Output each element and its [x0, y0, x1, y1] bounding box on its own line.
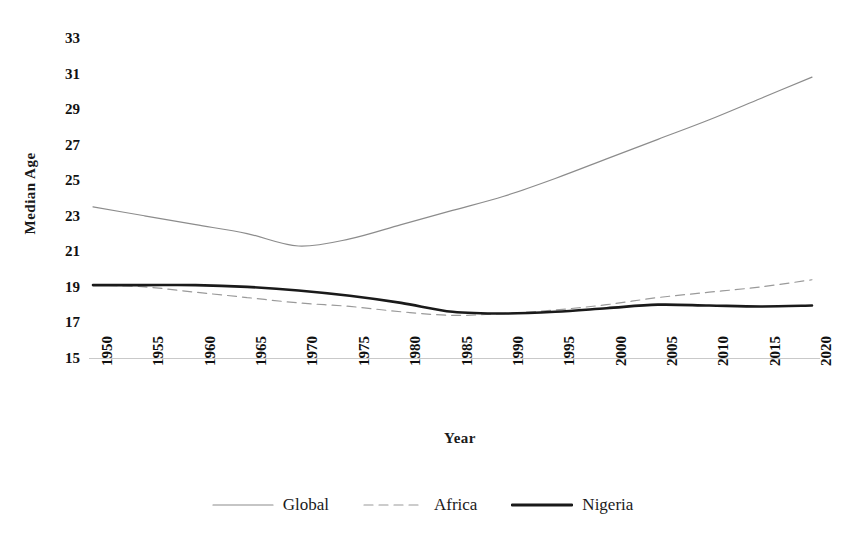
legend-swatch-africa [363, 500, 425, 510]
median-age-line-chart: Median Age 33312927252321191715 19501955… [0, 0, 845, 542]
series-line-nigeria [93, 285, 812, 314]
legend-swatch-nigeria [511, 500, 573, 510]
series-line-global [93, 77, 812, 246]
legend-item-nigeria[interactable]: Nigeria [511, 496, 633, 513]
x-axis-title: Year [400, 430, 520, 447]
chart-legend: GlobalAfricaNigeria [0, 496, 845, 513]
legend-label: Nigeria [582, 496, 633, 513]
plot-area [0, 0, 845, 542]
series-layer [93, 77, 812, 315]
legend-label: Africa [434, 496, 477, 513]
legend-swatch-global [212, 500, 274, 510]
legend-item-global[interactable]: Global [212, 496, 329, 513]
legend-label: Global [283, 496, 329, 513]
legend-item-africa[interactable]: Africa [363, 496, 477, 513]
